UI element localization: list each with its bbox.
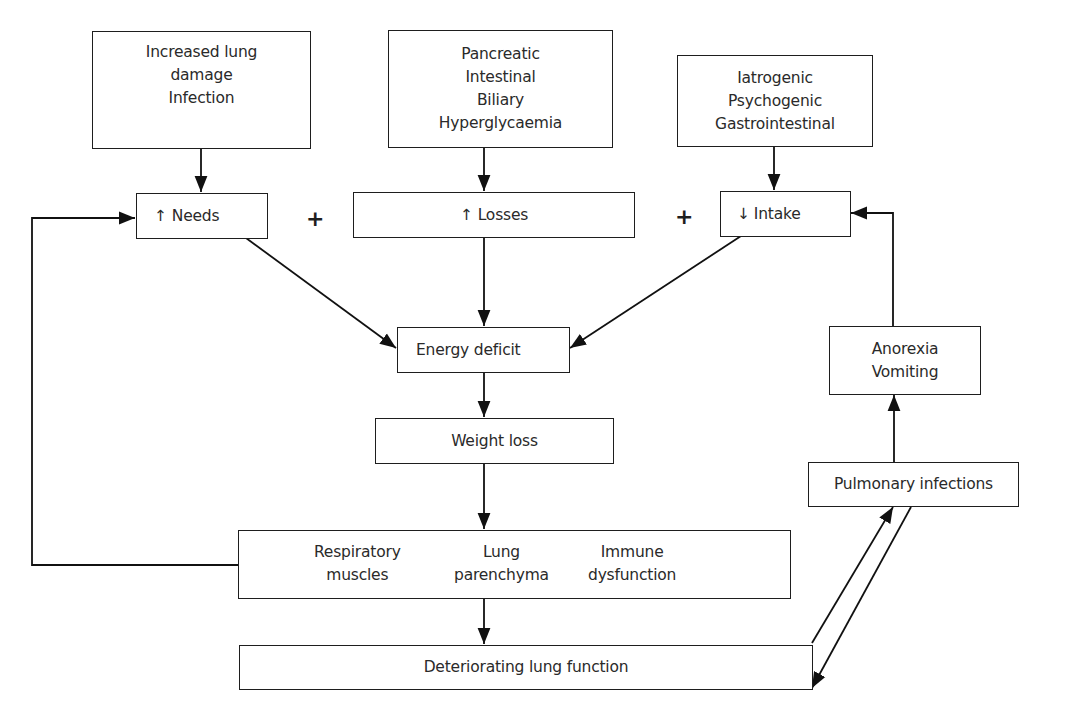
plus-operator-1: + <box>306 206 324 231</box>
lung-damage-line-1: Increased lung <box>146 41 257 64</box>
arrow-intake-to-energy <box>570 236 741 348</box>
arrow-needs-to-energy <box>246 238 396 348</box>
box-lung-damage: Increased lung damage Infection <box>92 31 311 149</box>
effect-lung-parenchyma: Lung parenchyma <box>454 541 549 587</box>
box-losses: ↑ Losses <box>353 192 635 238</box>
effect-line: Lung <box>483 541 520 564</box>
effect-line: Immune <box>601 541 664 564</box>
lung-damage-line-3: Infection <box>169 87 235 110</box>
gi-causes-line-4: Hyperglycaemia <box>439 112 562 135</box>
effect-line: dysfunction <box>588 564 676 587</box>
effect-line: Respiratory <box>314 541 401 564</box>
losses-label: Losses <box>478 204 528 227</box>
up-arrow-icon: ↑ <box>154 205 167 228</box>
deteriorating-label: Deteriorating lung function <box>424 656 629 679</box>
arrow-pulmonary-to-deteriorating <box>812 507 911 688</box>
lung-damage-line-2: damage <box>170 64 232 87</box>
intake-causes-line-2: Psychogenic <box>728 90 822 113</box>
gi-causes-line-2: Intestinal <box>465 66 535 89</box>
intake-causes-line-3: Gastrointestinal <box>715 113 835 136</box>
plus-operator-2: + <box>675 204 693 229</box>
pulmonary-infections-label: Pulmonary infections <box>834 473 993 496</box>
gi-causes-line-1: Pancreatic <box>461 43 539 66</box>
arrow-deteriorating-to-pulmonary <box>812 507 893 643</box>
box-needs: ↑ Needs <box>136 193 268 239</box>
box-pulmonary-infections: Pulmonary infections <box>808 462 1019 507</box>
up-arrow-icon: ↑ <box>460 204 473 227</box>
arrow-anorexia-to-intake <box>851 213 893 326</box>
box-intake: ↓ Intake <box>720 191 851 237</box>
arrow-effects-to-needs <box>32 218 238 565</box>
box-energy-deficit: Energy deficit <box>397 327 570 373</box>
effect-respiratory-muscles: Respiratory muscles <box>314 541 401 587</box>
needs-label: Needs <box>172 205 220 228</box>
anorexia-line-2: Vomiting <box>872 361 939 384</box>
box-effects: Respiratory muscles Lung parenchyma Immu… <box>238 530 791 599</box>
effect-line: parenchyma <box>454 564 549 587</box>
anorexia-line-1: Anorexia <box>872 338 939 361</box>
effect-immune-dysfunction: Immune dysfunction <box>588 541 676 587</box>
box-gi-causes: Pancreatic Intestinal Biliary Hyperglyca… <box>388 30 613 148</box>
gi-causes-line-3: Biliary <box>477 89 524 112</box>
box-intake-causes: Iatrogenic Psychogenic Gastrointestinal <box>677 55 873 147</box>
box-weight-loss: Weight loss <box>375 418 614 464</box>
box-deteriorating-lung-function: Deteriorating lung function <box>239 645 813 690</box>
intake-causes-line-1: Iatrogenic <box>737 67 813 90</box>
energy-deficit-label: Energy deficit <box>416 339 520 362</box>
box-anorexia-vomiting: Anorexia Vomiting <box>829 326 981 395</box>
intake-label: Intake <box>754 203 801 226</box>
effect-line: muscles <box>326 564 388 587</box>
down-arrow-icon: ↓ <box>737 203 750 226</box>
weight-loss-label: Weight loss <box>451 430 538 453</box>
